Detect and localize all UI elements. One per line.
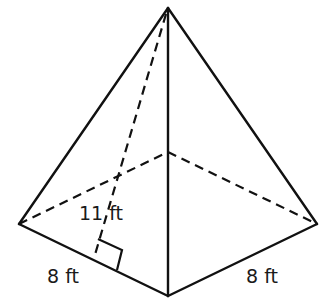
base-edge-right-front xyxy=(168,224,317,296)
base-right-edge-label: 8 ft xyxy=(246,265,278,287)
edge-apex-right xyxy=(168,8,317,224)
base-left-edge-label: 8 ft xyxy=(47,265,79,287)
hidden-edge-right-back xyxy=(168,152,317,224)
base-edge-left-front xyxy=(19,224,168,296)
pyramid-diagram: 11 ft 8 ft 8 ft xyxy=(0,0,336,301)
right-angle-marker xyxy=(98,239,122,270)
edge-apex-left xyxy=(19,8,168,224)
slant-height-label: 11 ft xyxy=(79,202,123,224)
